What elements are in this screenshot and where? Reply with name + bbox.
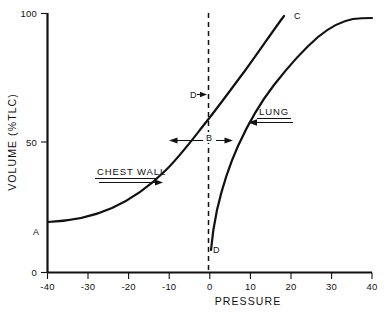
b-arrow-head-left	[169, 137, 178, 143]
y-tick-label-100: 100	[21, 8, 37, 19]
d-upper-arrow-head	[200, 92, 207, 97]
b-label: B	[206, 133, 212, 143]
d-upper-label: D	[190, 90, 197, 100]
b-arrow-head-right	[225, 137, 234, 143]
chest-wall-annotation: CHEST WALL	[95, 166, 166, 186]
x-tick-label-0: 0	[207, 281, 212, 292]
chest-wall-curve	[48, 16, 284, 222]
y-tick-group: 0 50 100	[21, 8, 48, 278]
x-tick-group: -40 -30 -20 -10 0 10 20 30 40	[40, 273, 377, 293]
chest-wall-arrow-head	[155, 180, 163, 186]
c-label: C	[294, 11, 301, 21]
x-tick-label-40: 40	[367, 281, 378, 292]
y-axis-title: VOLUME (%TLC)	[6, 93, 18, 191]
x-tick-label-10: 10	[245, 281, 256, 292]
x-tick-label--30: -30	[81, 281, 95, 292]
lung-curve	[211, 18, 372, 250]
y-tick-label-50: 50	[26, 137, 37, 148]
x-tick-label-20: 20	[286, 281, 297, 292]
lung-annotation: LUNG	[248, 106, 293, 126]
x-tick-label--10: -10	[162, 281, 176, 292]
pressure-volume-chart: 0 50 100 -40 -30 -20 -10 0 10 20 30 40	[0, 0, 386, 312]
b-measure-annotation: B	[169, 132, 233, 144]
x-tick-label--40: -40	[40, 281, 54, 292]
chest-wall-label: CHEST WALL	[97, 166, 166, 177]
x-tick-label-30: 30	[326, 281, 337, 292]
lung-label: LUNG	[259, 106, 289, 117]
x-axis-title: PRESSURE	[215, 295, 282, 307]
a-label: A	[33, 227, 39, 237]
d-upper-annotation: D	[190, 90, 207, 100]
d-lower-label: D	[213, 245, 220, 255]
y-tick-label-0: 0	[32, 267, 37, 278]
x-tick-label--20: -20	[121, 281, 135, 292]
chart-page: 0 50 100 -40 -30 -20 -10 0 10 20 30 40	[0, 0, 386, 312]
